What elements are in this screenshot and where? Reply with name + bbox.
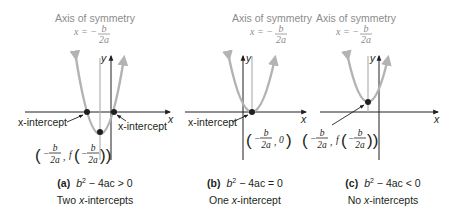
svg-text:2a: 2a: [317, 140, 327, 150]
svg-text:−: −: [254, 134, 260, 144]
panel-c: Axis of symmetry x = − b 2a y x ( − b 2a…: [302, 12, 440, 206]
svg-text:b: b: [264, 128, 269, 138]
axis-of-symmetry-title: Axis of symmetry: [55, 12, 136, 24]
x-intercept-label: x-intercept: [18, 116, 67, 128]
svg-text:b: b: [364, 23, 369, 34]
svg-text:,: ,: [63, 152, 65, 162]
svg-text:,: ,: [274, 137, 276, 147]
svg-text:−: −: [81, 149, 87, 159]
svg-text:(: (: [302, 131, 308, 150]
x-axis-label: x: [433, 113, 440, 125]
axis-of-symmetry-label: Axis of symmetry x = − b 2a: [316, 12, 397, 45]
axis-of-symmetry-label: Axis of symmetry x = − b 2a: [55, 12, 136, 45]
svg-text:x = −: x = −: [335, 26, 359, 37]
x-intercept-label: x-intercept: [188, 116, 237, 128]
x-axis-label: x: [300, 113, 307, 125]
svg-text:): ): [286, 131, 292, 150]
svg-text:b: b: [91, 143, 96, 153]
svg-text:2a: 2a: [261, 140, 271, 150]
condition-a: (a)b2 − 4ac > 0: [57, 177, 132, 189]
svg-text:(: (: [74, 146, 80, 165]
vertex-label: ( − b 2a , 0 ): [246, 128, 292, 150]
vertex-label: ( − b 2a , f ( − b 2a )): [302, 128, 378, 150]
svg-text:b: b: [358, 128, 363, 138]
svg-text:2a: 2a: [88, 155, 98, 165]
symmetry-equation-numerator: b: [102, 23, 107, 34]
svg-text:2a: 2a: [50, 155, 60, 165]
vertex-point: [365, 99, 371, 105]
pointer-arrow: [67, 115, 83, 122]
svg-text:)): )): [367, 131, 378, 150]
svg-text:(: (: [246, 131, 252, 150]
svg-text:f: f: [336, 135, 340, 145]
svg-text:2a: 2a: [276, 34, 286, 45]
symmetry-equation-denominator: 2a: [99, 34, 109, 45]
y-axis-label: y: [245, 52, 252, 64]
vertex-label: ( − b 2a , f ( − b 2a )): [35, 143, 111, 165]
svg-text:)): )): [100, 146, 111, 165]
svg-text:Axis of symmetry: Axis of symmetry: [232, 12, 313, 24]
vertex-point: [97, 129, 103, 135]
svg-text:b: b: [279, 23, 284, 34]
svg-text:f: f: [69, 150, 73, 160]
svg-text:,: ,: [330, 137, 332, 147]
y-axis-label: y: [369, 52, 376, 64]
x-intercept-label: x-intercept: [118, 120, 167, 132]
discriminant-figure: Axis of symmetry x = − b 2a y x x-interc…: [0, 0, 461, 211]
svg-text:2a: 2a: [361, 34, 371, 45]
svg-text:Axis of symmetry: Axis of symmetry: [316, 12, 397, 24]
axis-of-symmetry-label: Axis of symmetry x = − b 2a: [232, 12, 313, 45]
svg-text:b: b: [320, 128, 325, 138]
vertex-point: [249, 109, 255, 115]
x-axis-label: x: [167, 113, 174, 125]
x-intercept-point: [84, 109, 90, 115]
pointer-arrow: [332, 105, 364, 125]
condition-c: (c)b2 − 4ac < 0: [345, 177, 420, 189]
svg-text:−: −: [43, 149, 49, 159]
svg-text:−: −: [348, 134, 354, 144]
x-intercept-point: [111, 109, 117, 115]
svg-text:(: (: [35, 146, 41, 165]
description-a: Two x-intercepts: [57, 194, 133, 206]
svg-text:b: b: [53, 143, 58, 153]
panel-b: Axis of symmetry x = − b 2a y x x-interc…: [185, 12, 313, 206]
svg-text:2a: 2a: [355, 140, 365, 150]
description-b: One x-intercept: [209, 194, 281, 206]
svg-text:0: 0: [279, 135, 284, 145]
svg-text:−: −: [310, 134, 316, 144]
symmetry-equation-lhs: x = −: [73, 26, 97, 37]
svg-text:(: (: [341, 131, 347, 150]
svg-text:x = −: x = −: [249, 26, 273, 37]
panel-a: Axis of symmetry x = − b 2a y x x-interc…: [18, 12, 174, 206]
description-c: No x-intercepts: [348, 194, 419, 206]
y-axis-label: y: [100, 52, 107, 64]
condition-b: (b)b2 − 4ac = 0: [207, 177, 283, 189]
